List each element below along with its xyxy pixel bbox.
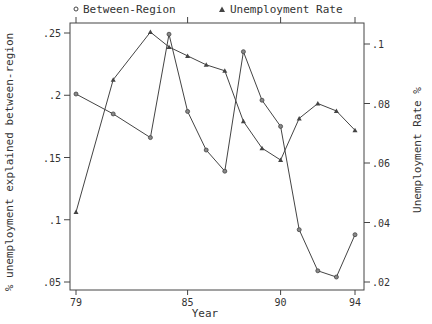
circle-marker-icon xyxy=(148,136,152,140)
triangle-marker-icon xyxy=(315,101,320,106)
triangle-marker-icon xyxy=(204,62,209,66)
legend-between-region: Between-Region xyxy=(83,3,176,16)
y-left-tick-label: .2 xyxy=(49,90,61,101)
y-right-tick-label: .1 xyxy=(372,39,384,50)
legend-circle-icon xyxy=(74,7,78,11)
circle-marker-icon xyxy=(111,112,115,116)
circle-marker-icon xyxy=(241,50,245,54)
y-left-tick-label: .15 xyxy=(43,153,61,164)
legend-unemployment-rate: Unemployment Rate xyxy=(230,3,343,16)
circle-marker-icon xyxy=(167,32,171,36)
circle-marker-icon xyxy=(334,275,338,279)
circle-marker-icon xyxy=(353,233,357,237)
y-right-tick-label: .06 xyxy=(372,158,390,169)
legend: Between-Region Unemployment Rate xyxy=(74,3,343,16)
x-tick-label: 94 xyxy=(349,297,361,308)
x-tick-label: 79 xyxy=(70,297,82,308)
circle-marker-icon xyxy=(279,124,283,128)
y-axis-left-title: % unemployment explained between-region xyxy=(3,33,16,291)
dual-axis-line-chart: Between-Region Unemployment Rate 7985909… xyxy=(0,0,432,324)
triangle-marker-icon xyxy=(241,119,246,124)
circle-marker-icon xyxy=(316,269,320,273)
circle-marker-icon xyxy=(297,228,301,232)
y-right-tick-label: .08 xyxy=(372,99,390,110)
series-line-triangle xyxy=(76,32,355,212)
triangle-marker-icon xyxy=(74,210,79,215)
series-line-circle xyxy=(76,34,355,277)
triangle-marker-icon xyxy=(278,158,283,163)
series-lines xyxy=(74,30,358,279)
circle-marker-icon xyxy=(204,148,208,152)
x-tick-label: 90 xyxy=(275,297,287,308)
x-axis-title: Year xyxy=(192,307,219,320)
circle-marker-icon xyxy=(186,109,190,113)
legend-triangle-icon xyxy=(219,7,225,13)
triangle-marker-icon xyxy=(185,53,190,58)
y-left-tick-label: .1 xyxy=(49,215,61,226)
y-right-tick-label: .04 xyxy=(372,218,390,229)
triangle-marker-icon xyxy=(148,30,153,34)
circle-marker-icon xyxy=(260,98,264,102)
y-left-tick-label: .05 xyxy=(43,277,61,288)
plot-frame xyxy=(70,23,364,290)
y-axis-right-title: Unemployment Rate % xyxy=(411,87,424,213)
y-right-tick-label: .02 xyxy=(372,277,390,288)
y-left-tick-label: .25 xyxy=(43,28,61,39)
circle-marker-icon xyxy=(223,169,227,173)
circle-marker-icon xyxy=(74,92,78,96)
